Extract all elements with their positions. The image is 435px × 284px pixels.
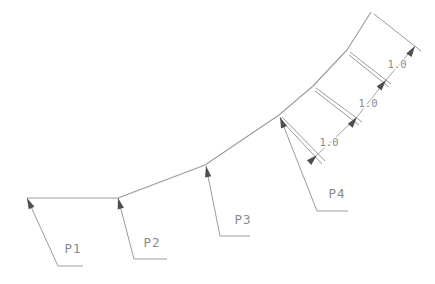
dimension-label-1: 1.0: [388, 58, 407, 70]
extension-line-4: [316, 88, 362, 122]
point-label-P3: P3: [234, 212, 251, 227]
dimension-label-2: 1.0: [359, 97, 378, 109]
leader-arrowhead-P3: [205, 166, 211, 177]
point-label-P4: P4: [328, 186, 345, 201]
extension-line-1: [374, 14, 421, 51]
leader-line-P1: [27, 198, 58, 266]
extension-line-7: [281, 120, 322, 164]
measure-diagram: 1.01.01.0P1P2P3P4: [0, 0, 435, 284]
tick-arrowhead-4: [307, 155, 317, 165]
leader-arrowhead-P2: [118, 198, 124, 209]
dimension-label-3: 1.0: [320, 136, 339, 148]
tick-arrowhead-2: [377, 80, 386, 91]
point-label-P2: P2: [143, 235, 160, 250]
curve-polyline: [27, 12, 371, 198]
point-label-P1: P1: [64, 241, 81, 256]
extension-line-2: [350, 52, 391, 84]
leader-arrowhead-P1: [27, 198, 34, 209]
cad-drawing-canvas: 1.01.01.0P1P2P3P4: [0, 0, 435, 284]
extension-line-5: [315, 91, 359, 125]
